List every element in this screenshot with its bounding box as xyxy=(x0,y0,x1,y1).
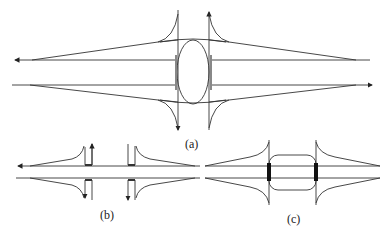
panel-c xyxy=(205,140,380,205)
oval-loop xyxy=(177,40,209,104)
panel-b-label: (b) xyxy=(100,208,114,223)
panel-c-label: (c) xyxy=(287,212,300,227)
diagram-canvas xyxy=(0,0,385,236)
panel-a-label: (a) xyxy=(185,137,198,152)
panel-b xyxy=(16,144,200,200)
connector-loop xyxy=(269,155,316,190)
panel-a xyxy=(12,10,372,130)
